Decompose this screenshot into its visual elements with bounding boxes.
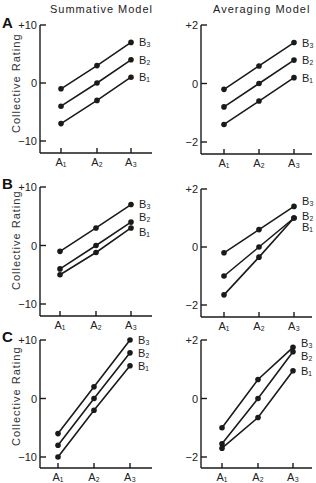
data-point (91, 384, 97, 390)
data-point (256, 227, 262, 233)
data-point (94, 80, 100, 86)
series-label-b1: B₁ (302, 72, 313, 84)
data-point (55, 454, 61, 460)
xtick-label: A₂ (90, 319, 102, 331)
ytick-label: +2 (185, 183, 198, 195)
ytick-label: −2 (185, 451, 198, 463)
xtick-label: A₂ (253, 320, 265, 332)
ytick-label: −10 (18, 298, 37, 310)
ytick-label: −10 (18, 135, 37, 147)
series-label-b1: B₁ (138, 360, 149, 372)
data-point (94, 98, 100, 104)
series-label-b3: B₃ (139, 198, 151, 210)
series-label-b3: B₃ (302, 37, 314, 49)
data-point (57, 249, 63, 255)
data-point (219, 445, 225, 451)
ytick-label: +10 (18, 181, 37, 193)
xtick-label: A₂ (91, 156, 103, 168)
data-point (255, 415, 261, 421)
data-point (291, 215, 297, 221)
ytick-label: 0 (31, 393, 37, 405)
xtick-label: A₂ (88, 471, 100, 483)
data-point (291, 57, 297, 63)
data-point (57, 272, 63, 278)
xtick-label: A₃ (124, 471, 136, 483)
data-point (57, 266, 63, 272)
data-point (256, 254, 262, 260)
data-point (290, 368, 296, 374)
data-point (221, 273, 227, 279)
data-point (256, 81, 262, 87)
data-point (58, 103, 64, 109)
xtick-label: A₁ (52, 471, 63, 483)
ytick-label: +2 (185, 19, 198, 31)
xtick-label: A₁ (55, 156, 66, 168)
ytick-label: 0 (192, 393, 198, 405)
figure: Summative Model Averaging Model A B C Co… (0, 0, 316, 483)
data-point (291, 204, 297, 210)
ytick-label: 0 (192, 78, 198, 90)
xtick-label: A₃ (288, 320, 300, 332)
data-point (128, 74, 134, 80)
series-label-b3: B₃ (139, 36, 151, 48)
ytick-label: 0 (31, 77, 37, 89)
data-point (291, 40, 297, 46)
data-point (128, 202, 134, 208)
data-point (93, 243, 99, 249)
data-point (55, 443, 61, 449)
ytick-label: +2 (185, 334, 198, 346)
data-point (58, 86, 64, 92)
data-point (128, 219, 134, 225)
data-point (58, 121, 64, 127)
series-label-b2: B₂ (138, 347, 150, 359)
data-point (128, 225, 134, 231)
series-label-b3: B₃ (301, 337, 313, 349)
series-label-b2: B₂ (302, 54, 314, 66)
ytick-label: +10 (18, 19, 37, 31)
xtick-label: A₁ (216, 471, 227, 483)
data-point (255, 377, 261, 383)
series-label-b1: B₁ (139, 71, 150, 83)
ytick-label: 0 (31, 240, 37, 252)
ytick-label: −2 (185, 299, 198, 311)
data-point (221, 292, 227, 298)
data-point (256, 244, 262, 250)
data-point (256, 98, 262, 104)
plot-canvas: +100−10A₁A₂A₃B₃B₂B₁+20−2A₁A₂A₃B₃B₂B₁+100… (0, 0, 316, 483)
data-point (221, 250, 227, 256)
data-point (290, 349, 296, 355)
data-point (91, 396, 97, 402)
series-label-b1: B₁ (302, 221, 313, 233)
series-label-b1: B₁ (139, 226, 150, 238)
data-point (256, 63, 262, 69)
xtick-label: A₂ (252, 471, 264, 483)
data-point (127, 337, 133, 343)
series-label-b3: B₃ (302, 195, 314, 207)
data-point (94, 63, 100, 69)
data-point (55, 431, 61, 437)
data-point (221, 104, 227, 110)
ytick-label: −2 (185, 136, 198, 148)
series-label-b1: B₁ (301, 365, 312, 377)
series-label-b3: B₃ (138, 334, 150, 346)
ytick-label: 0 (192, 241, 198, 253)
ytick-label: −10 (18, 451, 37, 463)
data-point (255, 396, 261, 402)
data-point (127, 363, 133, 369)
xtick-label: A₃ (125, 156, 137, 168)
data-point (127, 350, 133, 356)
xtick-label: A₁ (54, 319, 65, 331)
data-point (93, 225, 99, 231)
data-point (291, 75, 297, 81)
data-point (93, 250, 99, 256)
data-point (128, 40, 134, 46)
data-point (221, 87, 227, 93)
series-label-b2: B₂ (139, 54, 151, 66)
series-label-b2: B₂ (139, 211, 151, 223)
ytick-label: +10 (18, 334, 37, 346)
data-point (128, 57, 134, 63)
xtick-label: A₁ (218, 320, 229, 332)
data-point (91, 407, 97, 413)
xtick-label: A₃ (288, 157, 300, 169)
series-line-b1 (222, 371, 293, 449)
